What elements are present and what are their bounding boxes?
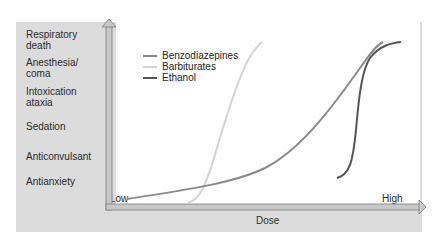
legend-label: Ethanol xyxy=(162,72,196,83)
x-axis-arrow xyxy=(106,200,426,214)
legend-label: Barbiturates xyxy=(162,61,216,72)
y-axis-arrow xyxy=(102,19,116,210)
legend-item-ethanol: Ethanol xyxy=(143,72,238,83)
legend-item-benzodiazepines: Benzodiazepines xyxy=(143,50,238,61)
legend-swatch-icon xyxy=(143,77,157,79)
legend-item-barbiturates: Barbiturates xyxy=(143,61,238,72)
chart-svg xyxy=(0,0,438,246)
legend-swatch-icon xyxy=(143,66,157,68)
legend-swatch-icon xyxy=(143,55,157,57)
legend-label: Benzodiazepines xyxy=(162,50,238,61)
curve-ethanol xyxy=(337,42,401,178)
legend: Benzodiazepines Barbiturates Ethanol xyxy=(143,50,238,83)
